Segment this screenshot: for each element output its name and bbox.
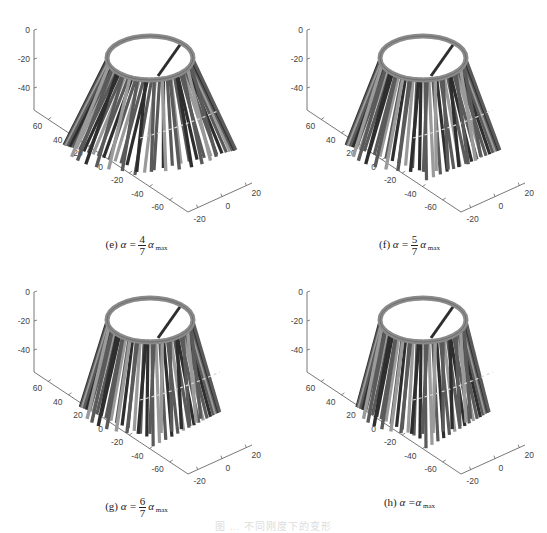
caption-subscript: max	[426, 244, 440, 252]
z-tick-label: 0	[25, 287, 30, 297]
y-tick-label: -60	[424, 202, 437, 212]
subfigure-caption: (f) α =57α max	[273, 234, 546, 257]
caption-alpha: α =	[393, 238, 409, 250]
x-tick-label: -20	[193, 214, 206, 224]
y-tick-label: -60	[424, 464, 437, 474]
z-tick-label: -40	[291, 83, 304, 93]
strip	[147, 340, 148, 437]
front-strip	[161, 341, 162, 433]
y-tick-label: -20	[384, 175, 397, 185]
caption-label: (h)	[384, 496, 400, 508]
x-tick-label: 0	[226, 201, 231, 211]
x-tick-label: -20	[466, 214, 479, 224]
front-strip	[435, 79, 436, 171]
x-tick-label: -20	[193, 476, 206, 486]
x-tick-label: 0	[226, 463, 231, 473]
y-tick-label: -20	[111, 437, 124, 447]
inner-strip	[158, 304, 182, 338]
plot-3d-f: 0-20-406040200-20-40-60-20020	[273, 0, 546, 235]
top-ring-edge	[107, 298, 193, 342]
x-tick-label: 20	[252, 450, 262, 460]
z-tick-label: 0	[298, 287, 303, 297]
z-tick-label: -20	[291, 54, 304, 64]
strip	[420, 340, 421, 439]
panel-e: 0-20-406040200-20-40-60-20020(e) α =47α …	[0, 0, 273, 255]
caption-subscript: max	[154, 506, 168, 514]
z-tick-label: 0	[298, 25, 303, 35]
y-tick-label: 20	[73, 410, 83, 420]
x-tick-label: 20	[525, 188, 535, 198]
plot-3d-e: 0-20-406040200-20-40-60-20020	[0, 0, 273, 235]
z-tick-label: -20	[18, 54, 31, 64]
caption-subscript: max	[421, 502, 435, 510]
caption-fraction: 47	[138, 234, 146, 257]
y-tick-label: -40	[404, 451, 417, 461]
plot-3d-h: 0-20-406040200-20-40-60-20020	[273, 262, 546, 497]
caption-label: (e)	[105, 238, 120, 250]
front-strip	[450, 337, 452, 429]
y-tick-label: 60	[33, 383, 43, 393]
caption-label: (g)	[105, 500, 121, 512]
y-tick-label: -20	[111, 175, 124, 185]
y-tick-label: 60	[306, 121, 316, 131]
y-tick-label: -40	[404, 189, 417, 199]
caption-label: (f)	[379, 238, 393, 250]
y-tick-label: 40	[326, 397, 336, 407]
subfigure-caption: (h) α =α max	[273, 496, 546, 510]
y-tick-label: -20	[384, 437, 397, 447]
y-tick-label: 20	[346, 410, 356, 420]
top-ring-edge	[107, 36, 193, 80]
y-tick-label: -60	[151, 202, 164, 212]
y-tick-label: -60	[151, 464, 164, 474]
y-tick-label: -40	[131, 451, 144, 461]
caption-alpha: α =α	[400, 496, 422, 508]
subfigure-caption: (g) α =67α max	[0, 496, 273, 519]
y-tick-label: 40	[53, 135, 63, 145]
x-tick-label: 0	[499, 201, 504, 211]
plot-3d-g: 0-20-406040200-20-40-60-20020	[0, 262, 273, 497]
y-tick-label: 40	[326, 135, 336, 145]
x-tick-label: 20	[252, 188, 262, 198]
front-strip	[170, 339, 172, 431]
caption-fraction: 67	[139, 496, 147, 519]
strip	[419, 78, 421, 171]
x-tick-label: 0	[499, 463, 504, 473]
caption-fraction: 57	[411, 234, 419, 257]
strip	[156, 340, 160, 443]
panel-g: 0-20-406040200-20-40-60-20020(g) α =67α …	[0, 262, 273, 517]
inner-strip	[158, 42, 182, 76]
z-tick-label: -40	[18, 345, 31, 355]
x-tick-label: 20	[525, 450, 535, 460]
figure-caption: 图 ... 不同刚度下的变形	[0, 518, 547, 533]
panel-h: 0-20-406040200-20-40-60-20020(h) α =α ma…	[273, 262, 546, 517]
y-tick-label: 60	[306, 383, 316, 393]
z-tick-label: -20	[18, 316, 31, 326]
z-tick-label: -20	[291, 316, 304, 326]
z-tick-label: 0	[25, 25, 30, 35]
front-strip	[433, 341, 435, 433]
panel-f: 0-20-406040200-20-40-60-20020(f) α =57α …	[273, 0, 546, 255]
caption-alpha: α =	[121, 500, 137, 512]
top-ring-edge	[380, 36, 466, 80]
inner-strip	[431, 42, 455, 76]
x-tick-label: -20	[466, 476, 479, 486]
y-tick-label: 40	[53, 397, 63, 407]
y-tick-label: -40	[131, 189, 144, 199]
subfigure-caption: (e) α =47α max	[0, 234, 273, 257]
z-tick-label: -40	[18, 83, 31, 93]
caption-alpha: α =	[120, 238, 136, 250]
caption-subscript: max	[154, 244, 168, 252]
z-tick-label: -40	[291, 345, 304, 355]
inner-strip	[431, 304, 455, 338]
top-ring-edge	[380, 298, 466, 342]
y-tick-label: 60	[33, 121, 43, 131]
